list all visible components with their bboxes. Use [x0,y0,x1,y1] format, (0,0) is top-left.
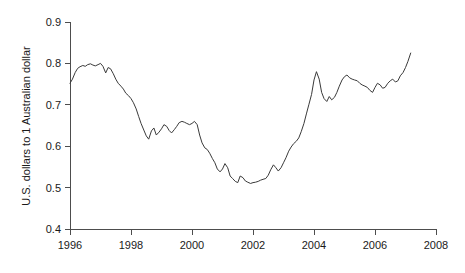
y-tick-label: 0.5 [46,182,61,194]
series-line [70,53,411,183]
x-tick-label: 2008 [424,239,448,251]
x-tick-label: 1998 [119,239,143,251]
exchange-rate-line-chart: U.S. dollars to 1 Australian dollar 0.40… [0,0,465,273]
x-tick-label: 2000 [180,239,204,251]
x-axis: 1996199820002002200420062008 [58,229,448,251]
y-tick-label: 0.6 [46,140,61,152]
y-axis-title-label: U.S. dollars to 1 Australian dollar [20,46,32,206]
x-tick-label: 1996 [58,239,82,251]
y-axis-title: U.S. dollars to 1 Australian dollar [20,46,32,206]
chart-container: U.S. dollars to 1 Australian dollar 0.40… [0,0,465,273]
x-tick-label: 2004 [302,239,326,251]
y-tick-label: 0.7 [46,99,61,111]
y-axis: 0.40.50.60.70.80.9 [46,16,70,235]
data-series [70,53,411,183]
x-tick-label: 2006 [363,239,387,251]
x-tick-label: 2002 [241,239,265,251]
y-tick-label: 0.4 [46,223,61,235]
y-tick-label: 0.8 [46,57,61,69]
y-tick-label: 0.9 [46,16,61,28]
